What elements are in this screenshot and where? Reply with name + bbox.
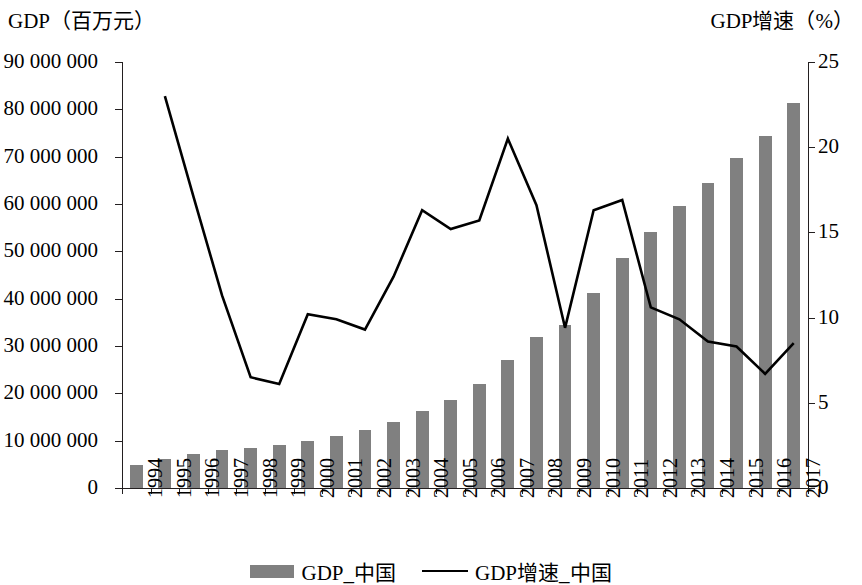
category-label-1996: 1996 [202, 458, 222, 498]
right-tick-label: 15 [818, 221, 839, 242]
category-label-1998: 1998 [260, 458, 280, 498]
category-label-2011: 2011 [631, 459, 651, 498]
category-tick [122, 488, 123, 494]
category-label-2003: 2003 [403, 458, 423, 498]
left-tick [115, 488, 122, 489]
left-tick [115, 109, 122, 110]
left-tick-label: 0 [88, 477, 99, 498]
category-label-2008: 2008 [545, 458, 565, 498]
line-series-growth [122, 62, 808, 488]
right-tick [808, 232, 815, 233]
left-axis-title: GDP（百万元） [8, 4, 155, 34]
right-tick-label: 10 [818, 307, 839, 328]
left-tick [115, 251, 122, 252]
left-tick [115, 393, 122, 394]
right-axis-line [808, 62, 809, 488]
category-label-2014: 2014 [717, 458, 737, 498]
legend-label-growth: GDP增速_中国 [475, 556, 612, 585]
chart-legend: GDP_中国 GDP增速_中国 [0, 556, 862, 585]
category-label-2009: 2009 [574, 458, 594, 498]
right-tick [808, 403, 815, 404]
category-label-2013: 2013 [688, 458, 708, 498]
right-tick-label: 25 [818, 51, 839, 72]
left-tick-label: 70 000 000 [4, 146, 99, 167]
legend-label-gdp: GDP_中国 [301, 556, 396, 585]
category-label-1994: 1994 [145, 458, 165, 498]
right-tick-label: 20 [818, 136, 839, 157]
category-label-2002: 2002 [374, 458, 394, 498]
left-tick-label: 10 000 000 [4, 430, 99, 451]
left-tick-label: 30 000 000 [4, 335, 99, 356]
category-label-2016: 2016 [774, 458, 794, 498]
right-tick [808, 62, 815, 63]
growth-polyline [165, 96, 794, 384]
bar-swatch-icon [250, 565, 294, 578]
left-tick [115, 157, 122, 158]
left-tick-label: 90 000 000 [4, 51, 99, 72]
right-tick [808, 147, 815, 148]
left-tick-label: 80 000 000 [4, 98, 99, 119]
left-tick-label: 40 000 000 [4, 288, 99, 309]
category-label-2015: 2015 [746, 458, 766, 498]
category-label-2000: 2000 [317, 458, 337, 498]
line-swatch-icon [422, 570, 468, 572]
category-label-2017: 2017 [803, 458, 823, 498]
left-tick-label: 60 000 000 [4, 193, 99, 214]
gdp-chart: GDP（百万元） GDP增速（%） 010 000 00020 000 0003… [0, 0, 862, 585]
category-label-2004: 2004 [431, 458, 451, 498]
category-label-1997: 1997 [231, 458, 251, 498]
left-tick [115, 62, 122, 63]
right-axis-title: GDP增速（%） [710, 4, 854, 34]
legend-item-growth: GDP增速_中国 [422, 556, 612, 585]
category-label-2006: 2006 [488, 458, 508, 498]
left-tick [115, 346, 122, 347]
category-label-2007: 2007 [517, 458, 537, 498]
category-label-2005: 2005 [460, 458, 480, 498]
category-label-2012: 2012 [660, 458, 680, 498]
left-tick-label: 50 000 000 [4, 240, 99, 261]
legend-item-gdp: GDP_中国 [250, 556, 396, 585]
category-label-1995: 1995 [174, 458, 194, 498]
category-label-2010: 2010 [603, 458, 623, 498]
right-tick-label: 5 [818, 392, 829, 413]
category-label-1999: 1999 [288, 458, 308, 498]
left-tick [115, 441, 122, 442]
left-tick [115, 299, 122, 300]
plot-area [122, 62, 808, 488]
category-label-2001: 2001 [345, 458, 365, 498]
left-tick-label: 20 000 000 [4, 382, 99, 403]
right-tick [808, 318, 815, 319]
left-tick [115, 204, 122, 205]
